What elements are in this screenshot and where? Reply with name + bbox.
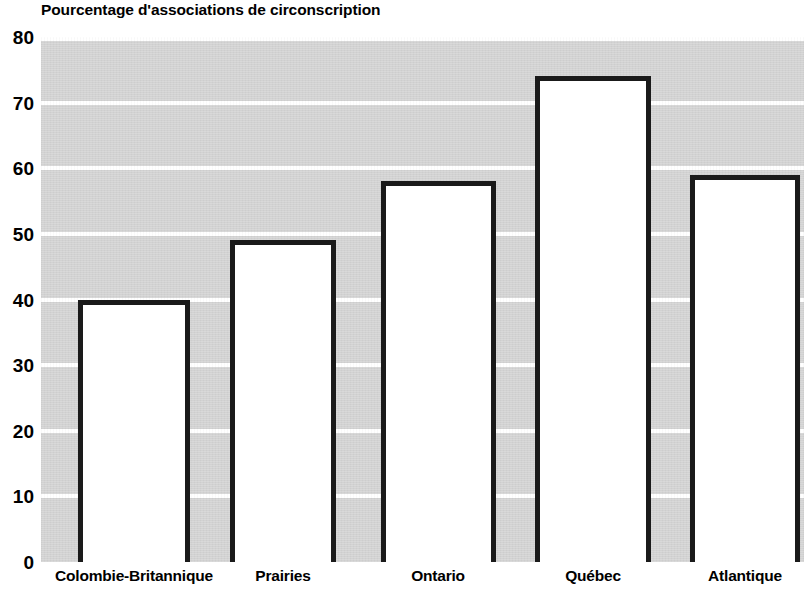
bar: [78, 300, 190, 563]
plot-area: [41, 37, 804, 562]
y-axis: 01020304050607080: [0, 0, 41, 590]
x-axis-tick-label: Atlantique: [343, 566, 804, 585]
bar: [381, 181, 496, 562]
y-axis-tick-label: 40: [13, 291, 34, 310]
bars-layer: [41, 37, 804, 562]
y-axis-tick-label: 60: [13, 159, 34, 178]
x-axis: Colombie-BritanniquePrairiesOntarioQuébe…: [0, 563, 804, 590]
y-axis-tick-label: 20: [13, 422, 34, 441]
y-axis-tick-label: 50: [13, 225, 34, 244]
y-axis-tick-label: 30: [13, 356, 34, 375]
bar-chart: Pourcentage d'associations de circonscri…: [0, 0, 804, 590]
bar: [230, 240, 336, 562]
bar: [535, 76, 651, 562]
y-axis-tick-label: 70: [13, 94, 34, 113]
chart-title: Pourcentage d'associations de circonscri…: [41, 1, 380, 19]
y-axis-tick-label: 10: [13, 487, 34, 506]
y-axis-tick-label: 80: [13, 28, 34, 47]
bar: [690, 175, 800, 562]
